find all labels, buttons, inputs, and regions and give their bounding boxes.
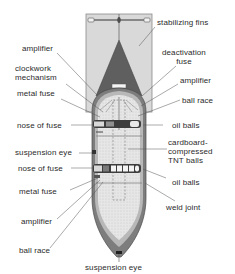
label-metal-fuse-top: metal fuse — [17, 89, 55, 98]
label-oil-balls-top: oil balls — [172, 121, 200, 130]
label-amplifier-bottom: amplifier — [21, 217, 52, 226]
label-nose-of-fuse-top: nose of fuse — [17, 121, 62, 130]
label-metal-fuse-bottom: metal fuse — [19, 187, 57, 196]
label-deactivation-fuse: deactivation fuse — [162, 48, 206, 66]
label-weld-joint: weld joint — [166, 203, 200, 212]
label-amplifier-top-right: amplifier — [180, 76, 211, 85]
label-clockwork-mechanism: clockwork mechanism — [15, 64, 57, 82]
label-amplifier-top-left: amplifier — [22, 44, 53, 53]
bomb-cross-section-illustration — [0, 0, 235, 274]
label-stabilizing-fins: stabilizing fins — [157, 18, 208, 27]
label-oil-balls-bottom: oil balls — [172, 178, 200, 187]
label-ball-race-top: ball race — [182, 96, 213, 105]
label-ball-race-bottom: ball race — [19, 246, 50, 255]
label-cardboard-compressed-tnt-balls: cardboard- compressed TNT balls — [168, 138, 213, 165]
suspension-eye-side-marker — [92, 150, 96, 154]
bomb-diagram: stabilizing fins amplifier deactivation … — [0, 0, 235, 274]
label-nose-of-fuse-bottom: nose of fuse — [18, 164, 63, 173]
label-suspension-eye-bottom: suspension eye — [85, 263, 142, 272]
label-suspension-eye-side: suspension eye — [15, 148, 72, 157]
